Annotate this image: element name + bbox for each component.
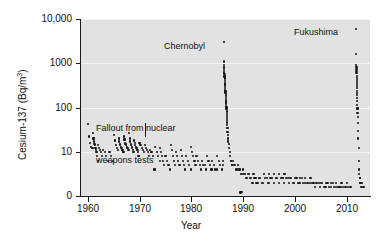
data-point bbox=[187, 160, 189, 162]
data-point bbox=[234, 164, 236, 166]
x-axis-tick bbox=[347, 197, 348, 202]
data-point bbox=[283, 182, 285, 184]
x-axis-tick-label: 2010 bbox=[322, 204, 372, 214]
gridline bbox=[80, 19, 370, 20]
data-point bbox=[92, 137, 94, 139]
x-axis-tick bbox=[88, 197, 89, 202]
data-point bbox=[200, 168, 202, 170]
data-point bbox=[226, 131, 228, 133]
data-point bbox=[356, 112, 358, 114]
data-point bbox=[340, 182, 342, 184]
data-point bbox=[357, 122, 359, 124]
data-point bbox=[355, 28, 357, 30]
data-point bbox=[330, 186, 332, 188]
data-point bbox=[210, 168, 212, 170]
y-axis-tick bbox=[76, 63, 81, 64]
data-point bbox=[358, 160, 360, 162]
y-axis-tick bbox=[76, 19, 81, 20]
data-point bbox=[278, 182, 280, 184]
data-point bbox=[177, 160, 179, 162]
x-axis-tick-label: 1970 bbox=[115, 204, 165, 214]
x-axis-line bbox=[80, 196, 371, 197]
y-axis-tick-label: 0 bbox=[20, 191, 72, 201]
y-axis-tick-label: 1000 bbox=[20, 58, 72, 68]
annotation-chernobyl: Chernobyl bbox=[164, 41, 205, 52]
x-axis-tick bbox=[140, 197, 141, 202]
data-point bbox=[283, 173, 285, 175]
data-point bbox=[239, 168, 241, 170]
y-axis-tick bbox=[76, 196, 81, 197]
data-point bbox=[332, 182, 334, 184]
data-point bbox=[195, 155, 197, 157]
annotation-fukushima: Fukushima bbox=[294, 27, 338, 38]
x-axis-tick bbox=[295, 197, 296, 202]
y-axis-tick bbox=[76, 108, 81, 109]
data-point bbox=[228, 143, 230, 145]
data-point bbox=[213, 164, 215, 166]
data-point bbox=[326, 182, 328, 184]
data-point bbox=[358, 168, 360, 170]
data-point bbox=[357, 130, 359, 132]
data-point bbox=[227, 137, 229, 139]
data-point bbox=[197, 160, 199, 162]
x-axis-tick bbox=[191, 197, 192, 202]
annotation-fallout-line2: weapons tests bbox=[96, 155, 176, 166]
data-point bbox=[211, 160, 213, 162]
gridline bbox=[80, 63, 370, 64]
x-axis-tick-label: 1960 bbox=[63, 204, 113, 214]
data-point bbox=[257, 182, 259, 184]
x-axis-tick bbox=[243, 197, 244, 202]
x-axis-tick-label: 1980 bbox=[166, 204, 216, 214]
data-point bbox=[207, 160, 209, 162]
data-point bbox=[204, 164, 206, 166]
data-point bbox=[252, 173, 254, 175]
data-point bbox=[218, 160, 220, 162]
data-point bbox=[267, 182, 269, 184]
data-point bbox=[242, 168, 244, 170]
data-point bbox=[221, 168, 223, 170]
data-point bbox=[199, 164, 201, 166]
y-axis-tick bbox=[76, 152, 81, 153]
annotation-fallout: Fallout from nuclear weapons tests bbox=[96, 102, 176, 186]
data-point bbox=[240, 191, 242, 193]
data-point bbox=[222, 160, 224, 162]
data-point bbox=[194, 164, 196, 166]
data-point bbox=[324, 186, 326, 188]
data-point bbox=[223, 41, 225, 43]
data-point bbox=[346, 182, 348, 184]
data-point bbox=[216, 168, 218, 170]
y-axis-title: Cesium-137 (Bq/m3) bbox=[14, 69, 28, 160]
data-point bbox=[182, 160, 184, 162]
data-point bbox=[201, 160, 203, 162]
data-point bbox=[298, 182, 300, 184]
x-axis-title: Year bbox=[0, 220, 382, 231]
cesium-137-scatter-chart: 010100100010,000 19601970198019902000201… bbox=[0, 0, 382, 247]
x-axis-tick-label: 1990 bbox=[218, 204, 268, 214]
data-point bbox=[223, 60, 225, 62]
data-point bbox=[180, 149, 182, 151]
data-point bbox=[263, 173, 265, 175]
data-point bbox=[356, 107, 358, 109]
data-point bbox=[190, 168, 192, 170]
data-point bbox=[268, 173, 270, 175]
data-point bbox=[193, 160, 195, 162]
y-axis-title-text: Cesium-137 (Bq/m3) bbox=[17, 69, 28, 160]
x-axis-tick-label: 2000 bbox=[270, 204, 320, 214]
y-axis-tick-label: 10,000 bbox=[20, 14, 72, 24]
data-point bbox=[273, 182, 275, 184]
annotation-fallout-leader-line bbox=[145, 123, 146, 137]
data-point bbox=[251, 182, 253, 184]
data-point bbox=[227, 134, 229, 136]
data-point bbox=[184, 168, 186, 170]
data-point bbox=[229, 151, 231, 153]
data-point bbox=[232, 160, 234, 162]
annotation-fallout-line1: Fallout from nuclear bbox=[96, 123, 176, 134]
